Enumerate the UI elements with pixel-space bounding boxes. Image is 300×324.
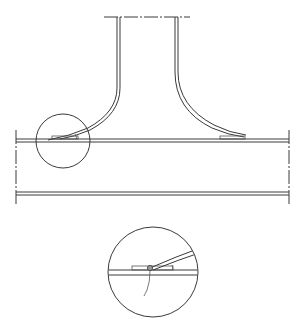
- technical-drawing: [0, 0, 300, 324]
- branch-pipe-left-wall: [48, 17, 120, 140]
- main-pipe-top-wall: [16, 139, 289, 142]
- main-pipe-bottom-wall: [16, 192, 289, 195]
- drawing-canvas: [0, 0, 300, 324]
- detail-view: [100, 227, 210, 317]
- branch-pipe-right-wall: [175, 17, 246, 137]
- detail-marker-circle: [36, 114, 90, 168]
- weld-point-icon: [147, 265, 152, 270]
